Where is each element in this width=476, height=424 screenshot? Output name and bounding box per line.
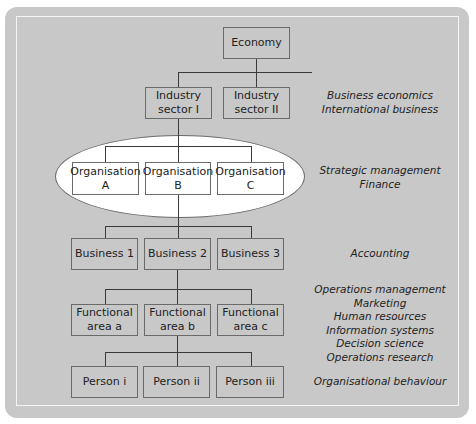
connector: [105, 146, 106, 162]
connector: [178, 195, 179, 238]
connector: [177, 270, 178, 304]
connector: [105, 289, 251, 290]
connector: [105, 146, 251, 147]
node-industry-sector-1: Industry sector I: [145, 87, 212, 119]
connector: [251, 289, 252, 304]
connector: [105, 226, 251, 227]
connector: [251, 226, 252, 238]
node-functional-area-c: Functional area c: [217, 304, 284, 336]
node-industry-sector-2: Industry sector II: [223, 87, 290, 119]
connector: [105, 352, 106, 366]
node-economy: Economy: [223, 27, 290, 59]
node-functional-area-b: Functional area b: [144, 304, 211, 336]
connector: [177, 336, 178, 366]
node-business-2: Business 2: [144, 238, 211, 270]
connector: [105, 226, 106, 238]
connector: [178, 72, 179, 87]
label-business: Accounting: [305, 247, 455, 261]
node-functional-area-a: Functional area a: [71, 304, 138, 336]
node-business-3: Business 3: [217, 238, 284, 270]
label-industry: Business economics International busines…: [305, 89, 455, 116]
label-organisation: Strategic management Finance: [305, 164, 455, 191]
node-organisation-c: Organisation C: [217, 162, 284, 195]
node-person-i: Person i: [71, 366, 138, 398]
node-organisation-a: Organisation A: [72, 162, 139, 195]
connector: [256, 59, 257, 72]
node-person-iii: Person iii: [216, 366, 284, 398]
node-business-1: Business 1: [71, 238, 138, 270]
node-person-ii: Person ii: [143, 366, 210, 398]
connector: [178, 119, 179, 162]
connector: [251, 146, 252, 162]
connector: [105, 352, 251, 353]
label-person: Organisational behaviour: [305, 375, 455, 389]
node-organisation-b: Organisation B: [145, 162, 211, 195]
label-functional: Operations management Marketing Human re…: [305, 283, 455, 364]
connector: [251, 352, 252, 366]
connector: [178, 72, 312, 73]
connector: [256, 72, 257, 87]
connector: [105, 289, 106, 304]
